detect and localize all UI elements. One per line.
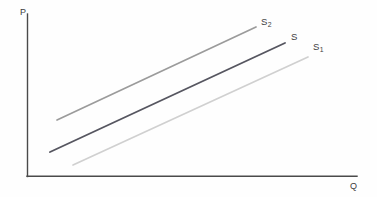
supply-curve-diagram: P Q S2 S S1 [0, 0, 377, 197]
curve-label-s1: S1 [313, 42, 323, 52]
curve-label-s2-subscript: 2 [268, 21, 272, 28]
curve-label-s1-subscript: 1 [320, 46, 324, 53]
curve-label-s: S [291, 32, 297, 42]
curve-label-s-text: S [291, 31, 297, 42]
plot-canvas [0, 0, 377, 197]
curve-label-s2: S2 [261, 17, 271, 27]
curve-label-s1-text: S [313, 41, 319, 52]
curve-label-s2-text: S [261, 16, 267, 27]
y-axis-label: P [20, 8, 26, 17]
supply-curve-s [50, 43, 285, 152]
supply-curve-s2 [57, 27, 256, 120]
x-axis-label: Q [350, 182, 357, 191]
supply-curve-s1 [73, 57, 308, 165]
